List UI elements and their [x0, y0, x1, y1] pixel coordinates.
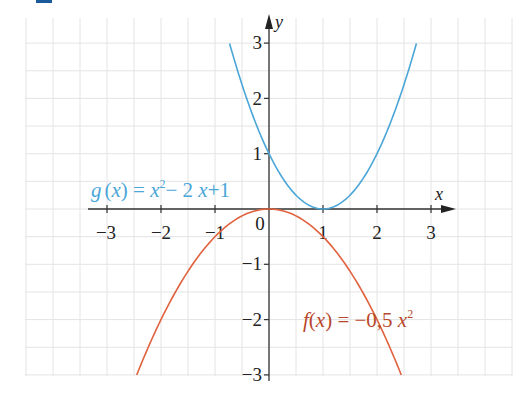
- y-axis-label: y: [273, 12, 283, 32]
- g-tail: +1: [208, 178, 230, 202]
- f-sup: 2: [407, 307, 413, 321]
- x-tick-label: 0: [255, 213, 265, 234]
- x-tick-label: −2: [151, 222, 171, 243]
- y-tick-label: −3: [242, 364, 262, 385]
- x-axis-arrow-icon: [441, 205, 456, 213]
- f-close: ): [325, 308, 332, 332]
- y-tick-label: −1: [242, 253, 262, 274]
- y-tick-label: −2: [242, 309, 262, 330]
- function-plot: x y −3 −2 −1 0 1 2 3 3 2 1 −1 −2 −3 g(x)…: [0, 0, 531, 393]
- x-tick-label: 2: [372, 222, 382, 243]
- g-mid: − 2: [166, 178, 199, 202]
- g-close: ): [121, 178, 128, 202]
- x-tick-label: −1: [205, 222, 225, 243]
- g-open: (: [105, 178, 112, 202]
- x-tick-label: −3: [96, 222, 116, 243]
- y-tick-label: 1: [253, 143, 263, 164]
- y-tick-label: 2: [253, 88, 263, 109]
- f-eq: =: [332, 308, 354, 332]
- f-coef: −0,5: [355, 308, 398, 332]
- y-tick-label: 3: [253, 32, 263, 53]
- g-name: g: [91, 178, 102, 202]
- x-axis-label: x: [434, 184, 443, 204]
- g-eq: =: [128, 178, 150, 202]
- f-function-label: f(x) = −0,5 x2: [303, 307, 413, 332]
- y-axis-arrow-icon: [265, 14, 273, 29]
- x-tick-label: 3: [426, 222, 436, 243]
- f-open: (: [309, 308, 316, 332]
